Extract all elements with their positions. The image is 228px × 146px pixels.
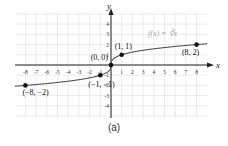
y-tick-label: 2 — [106, 42, 109, 48]
data-point — [119, 53, 124, 58]
x-tick-label: 8 — [195, 69, 198, 75]
data-point — [194, 42, 199, 47]
figure-caption: (a) — [0, 122, 228, 133]
point-label: (8, 2) — [182, 48, 200, 57]
x-tick-label: -7 — [34, 69, 39, 75]
x-tick-label: 4 — [152, 69, 155, 75]
x-tick-label: 3 — [142, 69, 145, 75]
point-label: (1, 1) — [115, 42, 133, 51]
x-tick-label: -8 — [23, 69, 28, 75]
x-tick-label: 6 — [174, 69, 177, 75]
x-tick-label: -5 — [55, 69, 60, 75]
x-tick-label: -4 — [66, 69, 71, 75]
x-axis-arrow-icon — [207, 63, 214, 68]
y-tick-label: 4 — [106, 21, 109, 27]
y-tick-label: 3 — [106, 31, 109, 37]
y-tick-label: -3 — [104, 93, 109, 99]
x-tick-label: 1 — [120, 69, 123, 75]
cube-root-chart: xy-8-7-6-5-4-3-2-112345678-4-3-2-11234(−… — [0, 0, 228, 120]
x-tick-label: 2 — [131, 69, 134, 75]
x-tick-label: -6 — [45, 69, 50, 75]
data-point — [98, 73, 103, 78]
x-tick-label: 5 — [163, 69, 166, 75]
y-tick-label: -4 — [104, 103, 109, 109]
data-point — [109, 63, 114, 68]
function-label: f(x) = ∛x — [148, 28, 178, 38]
data-point — [23, 83, 28, 88]
y-axis-label: y — [106, 1, 111, 11]
x-tick-label: -2 — [87, 69, 92, 75]
point-label: (−8, −2) — [22, 88, 49, 97]
point-label: (−1, −1) — [88, 80, 115, 89]
x-axis-label: x — [215, 60, 220, 70]
x-tick-label: 7 — [185, 69, 188, 75]
point-label: (0, 0) — [91, 53, 109, 62]
x-tick-label: -3 — [77, 69, 82, 75]
